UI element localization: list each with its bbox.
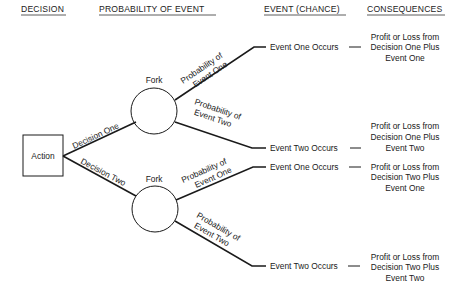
event-d1-e1: Event One Occurs xyxy=(270,42,338,52)
svg-text:Decision Two Plus: Decision Two Plus xyxy=(371,262,439,272)
decision-one-label: Decision One xyxy=(71,120,121,150)
event-d1-e2: Event Two Occurs xyxy=(270,143,338,153)
fork-two: Fork xyxy=(132,174,178,232)
fork-label: Fork xyxy=(146,75,164,85)
consequence-d2-e1: Profit or Loss from Decision Two Plus Ev… xyxy=(371,162,439,193)
column-headers: DECISION PROBABILITY OF EVENT EVENT (CHA… xyxy=(21,4,445,15)
decision-two-line xyxy=(63,156,136,196)
header-event: EVENT (CHANCE) xyxy=(264,4,340,14)
svg-text:Event Two: Event Two xyxy=(386,273,425,283)
decision-tree-diagram: DECISION PROBABILITY OF EVENT EVENT (CHA… xyxy=(0,0,465,283)
svg-text:Profit or Loss from: Profit or Loss from xyxy=(371,32,439,42)
action-node: Action xyxy=(23,135,63,176)
fork-one: Fork xyxy=(131,75,177,134)
decision-two-label: Decision Two xyxy=(79,156,128,188)
event-d2-e1: Event One Occurs xyxy=(270,162,338,172)
header-probability: PROBABILITY OF EVENT xyxy=(99,4,205,14)
prob-label-d1-e2: Probability of Event Two xyxy=(190,96,243,131)
branch-d1-e2 xyxy=(175,122,266,148)
prob-label-d1-e1: Probability of Event One xyxy=(179,50,231,94)
svg-text:Decision One Plus: Decision One Plus xyxy=(371,132,440,142)
consequence-d2-e2: Profit or Loss from Decision Two Plus Ev… xyxy=(371,252,439,283)
action-label: Action xyxy=(31,151,55,161)
svg-text:Profit or Loss from: Profit or Loss from xyxy=(371,121,439,131)
prob-label-d2-e1: Probability of Event One xyxy=(180,155,234,194)
header-decision: DECISION xyxy=(21,4,64,14)
fork-circle xyxy=(132,186,178,232)
header-consequences: CONSEQUENCES xyxy=(367,4,443,14)
event-d2-e2: Event Two Occurs xyxy=(270,261,338,271)
svg-text:Profit or Loss from: Profit or Loss from xyxy=(371,162,439,172)
svg-text:Event Two: Event Two xyxy=(386,143,425,153)
fork-label: Fork xyxy=(146,174,164,184)
svg-text:Decision Two Plus: Decision Two Plus xyxy=(371,172,439,182)
svg-text:Event One: Event One xyxy=(385,53,425,63)
svg-text:Decision One Plus: Decision One Plus xyxy=(371,42,440,52)
consequence-d1-e1: Profit or Loss from Decision One Plus Ev… xyxy=(371,32,440,63)
fork-circle xyxy=(131,88,177,134)
svg-text:Event One: Event One xyxy=(385,183,425,193)
svg-text:Profit or Loss from: Profit or Loss from xyxy=(371,252,439,262)
consequence-d1-e2: Profit or Loss from Decision One Plus Ev… xyxy=(371,121,440,153)
